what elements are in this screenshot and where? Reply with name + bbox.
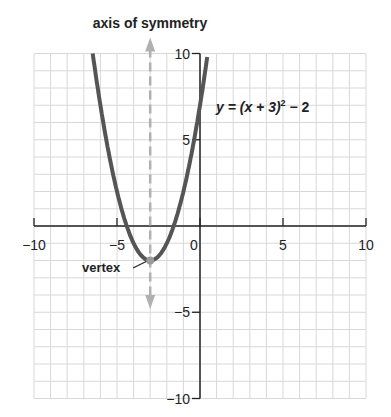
svg-text:5: 5 bbox=[279, 237, 287, 253]
svg-text:−5: −5 bbox=[109, 237, 125, 253]
vertex-pointer-line bbox=[133, 262, 146, 269]
svg-text:10: 10 bbox=[174, 46, 190, 62]
svg-text:−10: −10 bbox=[22, 237, 46, 253]
svg-text:−5: −5 bbox=[174, 304, 190, 320]
arrow-down-icon bbox=[145, 295, 155, 309]
arrow-up-icon bbox=[145, 38, 155, 52]
axis-of-symmetry-label: axis of symmetry bbox=[93, 15, 208, 31]
vertex-label: vertex bbox=[82, 260, 121, 275]
vertex-point bbox=[146, 257, 154, 265]
svg-text:0: 0 bbox=[190, 237, 198, 253]
svg-text:10: 10 bbox=[358, 237, 374, 253]
svg-text:5: 5 bbox=[182, 132, 190, 148]
parabola-graph: −10−50510105−5−10 axis of symmetry verte… bbox=[0, 0, 391, 417]
svg-text:−10: −10 bbox=[166, 391, 190, 407]
equation-label: y = (x + 3)2 − 2 bbox=[215, 98, 310, 115]
